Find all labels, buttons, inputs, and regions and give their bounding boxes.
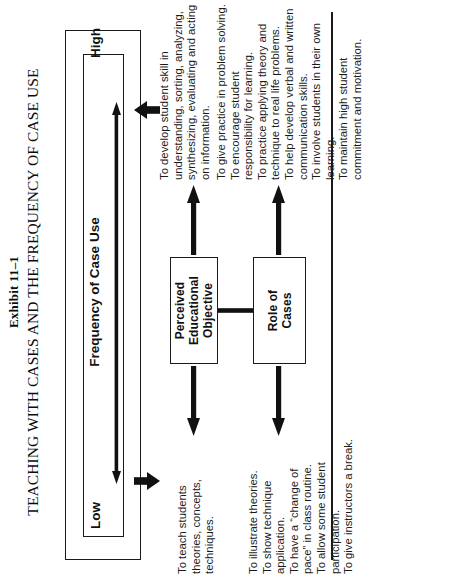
list-item: To encourage student responsibility for … <box>229 4 256 180</box>
list-item: To allow some student participation. <box>315 439 342 574</box>
roc-right-arrow <box>272 185 285 255</box>
list-item: To involve students in their own learnin… <box>310 4 337 180</box>
list-item: To have a “change of pace” in class rout… <box>288 439 315 574</box>
bottom-rule <box>331 12 333 560</box>
list-item: To illustrate theories. <box>247 439 261 574</box>
list-item: To help develop verbal and written commu… <box>283 4 310 180</box>
page-title: TEACHING WITH CASES AND THE FREQUENCY OF… <box>23 0 42 584</box>
title-block: Exhibit 11–1 TEACHING WITH CASES AND THE… <box>6 0 42 584</box>
node-roc-label: Role of Cases <box>266 290 294 331</box>
axis-title: Frequency of Case Use <box>87 0 102 584</box>
roc-left-arrow <box>272 366 285 436</box>
roc-high-text-column: To give practice in problem solving. To … <box>215 4 365 180</box>
list-item: To show technique application. <box>261 439 288 574</box>
peo-low-text-column: To teach students theories, concepts, te… <box>176 439 217 574</box>
peo-left-arrow <box>187 366 200 436</box>
list-item: To give instructors a break. <box>342 439 356 574</box>
peo-low-text: To teach students theories, concepts, te… <box>176 439 217 574</box>
peo-right-arrow <box>187 185 200 255</box>
node-connector-line <box>218 307 253 314</box>
exhibit-number: Exhibit 11–1 <box>6 0 22 584</box>
node-peo-label: Perceived Educational Objective <box>173 276 215 345</box>
exhibit-figure: Exhibit 11–1 TEACHING WITH CASES AND THE… <box>0 0 472 584</box>
roc-low-text-column: To illustrate theories. To show techniqu… <box>247 439 356 574</box>
list-item: To give practice in problem solving. <box>215 4 229 180</box>
node-role-of-cases: Role of Cases <box>253 257 306 364</box>
peo-high-text: To develop student skill in understandin… <box>158 4 212 180</box>
axis-low-feed-arrow <box>134 470 160 492</box>
peo-high-text-column: To develop student skill in understandin… <box>158 4 212 180</box>
list-item: To maintain high student commitment and … <box>337 4 364 180</box>
node-perceived-educational-objective: Perceived Educational Objective <box>170 257 218 364</box>
axis-high-feed-arrow <box>134 99 160 121</box>
rotated-figure-stage: Exhibit 11–1 TEACHING WITH CASES AND THE… <box>0 0 472 584</box>
list-item: To practice applying theory and techniqu… <box>256 4 283 180</box>
double-headed-axis-arrow <box>112 102 121 484</box>
